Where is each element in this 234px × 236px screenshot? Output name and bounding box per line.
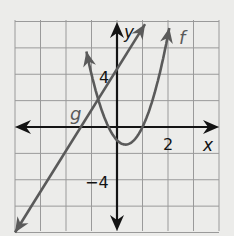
x-axis-label: x bbox=[202, 135, 214, 155]
axes bbox=[15, 22, 219, 231]
x-tick-label-2: 2 bbox=[163, 135, 173, 154]
y-tick-label-neg4: −4 bbox=[85, 173, 109, 192]
function-label-f: f bbox=[179, 27, 188, 48]
function-curves bbox=[15, 24, 173, 232]
line-g bbox=[15, 24, 145, 232]
y-tick-label-4: 4 bbox=[99, 68, 109, 87]
graph-canvas: y x 2 4 −4 f g bbox=[0, 0, 234, 236]
graph-figure: y x 2 4 −4 f g bbox=[0, 0, 234, 236]
function-label-g: g bbox=[70, 103, 81, 124]
y-axis-label: y bbox=[123, 22, 135, 42]
line-g-bottom-arrow-icon bbox=[15, 216, 28, 232]
